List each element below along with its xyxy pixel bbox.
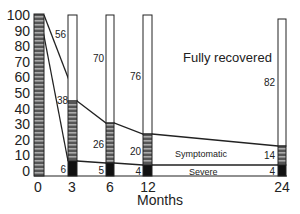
x-axis-title: Months xyxy=(137,192,183,208)
svg-text:60: 60 xyxy=(14,69,30,85)
svg-text:24: 24 xyxy=(274,179,290,195)
symptomatic-label: Symptomatic xyxy=(175,149,228,159)
svg-text:82: 82 xyxy=(264,77,276,88)
svg-text:26: 26 xyxy=(93,139,105,150)
bar-month-24 xyxy=(278,19,286,176)
svg-text:56: 56 xyxy=(55,29,67,40)
svg-text:4: 4 xyxy=(135,166,141,177)
svg-text:90: 90 xyxy=(14,23,30,39)
svg-text:80: 80 xyxy=(14,38,30,54)
svg-text:20: 20 xyxy=(14,132,30,148)
bar-month-6 xyxy=(106,15,114,176)
svg-text:70: 70 xyxy=(93,53,105,64)
stacked-bar-chart: 0 10 20 30 40 50 60 70 80 90 100 xyxy=(0,0,300,214)
svg-text:50: 50 xyxy=(14,85,30,101)
svg-text:30: 30 xyxy=(14,116,30,132)
bar-month-12 xyxy=(143,15,152,176)
svg-text:76: 76 xyxy=(130,71,142,82)
svg-text:6: 6 xyxy=(106,179,114,195)
svg-text:38: 38 xyxy=(57,95,69,106)
y-axis: 0 10 20 30 40 50 60 70 80 90 100 xyxy=(7,7,31,179)
svg-text:4: 4 xyxy=(269,166,275,177)
svg-text:20: 20 xyxy=(130,146,142,157)
svg-text:14: 14 xyxy=(264,150,276,161)
svg-text:6: 6 xyxy=(60,164,66,175)
svg-text:10: 10 xyxy=(14,147,30,163)
svg-text:70: 70 xyxy=(14,54,30,70)
svg-text:100: 100 xyxy=(7,7,31,23)
svg-text:0: 0 xyxy=(34,179,42,195)
svg-text:5: 5 xyxy=(98,165,104,176)
svg-text:0: 0 xyxy=(22,163,30,179)
svg-text:40: 40 xyxy=(14,101,30,117)
svg-text:3: 3 xyxy=(68,179,76,195)
bar-month-0 xyxy=(34,14,44,176)
severe-label: Severe xyxy=(189,167,218,177)
fully-recovered-label: Fully recovered xyxy=(183,50,272,65)
bar-month-3 xyxy=(68,15,77,176)
